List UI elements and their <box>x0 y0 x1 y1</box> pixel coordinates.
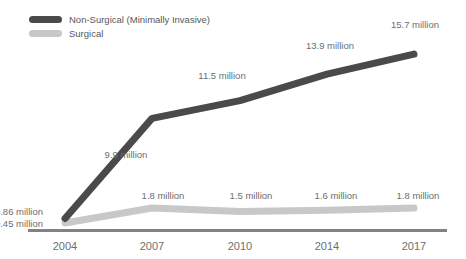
x-tick-label-2004: 2004 <box>53 240 77 252</box>
data-label: 1.8 million <box>142 190 185 201</box>
line-chart: Non-Surgical (Minimally Invasive) Surgic… <box>0 0 466 259</box>
x-axis-tick-labels: 2004 2007 2010 2014 2017 <box>53 240 426 252</box>
data-label: 1.6 million <box>315 190 358 201</box>
chart-container: Non-Surgical (Minimally Invasive) Surgic… <box>0 0 466 259</box>
data-label: 0.86 million <box>0 206 43 217</box>
x-tick-label-2007: 2007 <box>140 240 164 252</box>
data-label: 9.9 million <box>105 149 148 160</box>
legend-label-surgical: Surgical <box>69 28 103 39</box>
legend-swatch-surgical <box>29 30 62 37</box>
data-label: 13.9 million <box>306 40 354 51</box>
chart-legend: Non-Surgical (Minimally Invasive) Surgic… <box>29 14 210 39</box>
data-label: 1.8 million <box>397 190 440 201</box>
x-tick-label-2017: 2017 <box>402 240 426 252</box>
x-tick-label-2010: 2010 <box>228 240 252 252</box>
series-line-surgical <box>65 208 414 223</box>
x-tick-label-2014: 2014 <box>315 240 339 252</box>
data-label: 0.45 million <box>0 218 43 229</box>
data-label: 1.5 million <box>230 190 273 201</box>
legend-label-non-surgical: Non-Surgical (Minimally Invasive) <box>69 14 210 25</box>
data-labels-non-surgical: 0.86 million 9.9 million 11.5 million 13… <box>0 19 439 217</box>
data-label: 11.5 million <box>198 70 245 81</box>
data-label: 15.7 million <box>391 19 439 30</box>
legend-swatch-non-surgical <box>29 16 62 23</box>
